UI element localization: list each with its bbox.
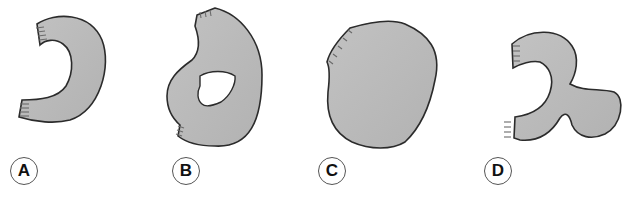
panel-label-d: D: [484, 157, 512, 185]
label-text: B: [180, 161, 192, 181]
label-text: A: [18, 161, 30, 181]
label-text: D: [492, 161, 504, 181]
panel-label-a: A: [10, 157, 38, 185]
shape-d: [504, 32, 621, 140]
shape-b: [167, 8, 262, 146]
panel-label-c: C: [318, 157, 346, 185]
diagram-canvas: [0, 0, 626, 197]
panel-label-b: B: [172, 157, 200, 185]
label-text: C: [326, 161, 338, 181]
shape-c: [327, 21, 437, 148]
hatch-marks-bottom: [504, 122, 511, 137]
shape-a: [19, 16, 105, 122]
